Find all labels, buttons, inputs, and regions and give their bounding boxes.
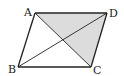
- edge-ba: [18, 13, 35, 67]
- parallelogram-diagram: A D B C: [0, 0, 124, 76]
- vertex-label-a: A: [23, 6, 33, 19]
- shaded-triangle-acd: [35, 13, 107, 67]
- vertex-label-d: D: [109, 7, 118, 20]
- vertex-label-b: B: [8, 63, 16, 76]
- vertex-label-c: C: [93, 64, 101, 76]
